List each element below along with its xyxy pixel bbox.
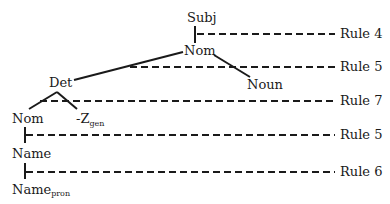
rule-label-5b: Rule 5	[340, 127, 382, 142]
syntax-tree-diagram: Subj Nom Noun Det Nom -Zgen Name Namepro…	[0, 0, 390, 204]
rule-label-5a: Rule 5	[340, 59, 382, 74]
node-name: Name	[12, 146, 51, 161]
node-name-pron: Namepron	[12, 182, 70, 198]
node-subj: Subj	[187, 10, 217, 25]
rule-label-4: Rule 4	[340, 26, 382, 41]
node-det: Det	[49, 75, 73, 90]
node-name-pron-sub: pron	[51, 189, 70, 198]
node-zgen-base: -Z	[76, 111, 89, 126]
node-noun: Noun	[247, 77, 284, 92]
edge-nom-noun	[214, 55, 250, 77]
rule-label-6: Rule 6	[340, 164, 382, 179]
node-zgen: -Zgen	[76, 111, 104, 128]
node-name-pron-base: Name	[12, 182, 51, 197]
rule-label-7: Rule 7	[340, 93, 382, 108]
node-nom-top: Nom	[184, 43, 216, 58]
edge-nom-det	[74, 52, 183, 80]
node-zgen-sub: gen	[89, 119, 104, 128]
node-nom-mid: Nom	[12, 111, 44, 126]
